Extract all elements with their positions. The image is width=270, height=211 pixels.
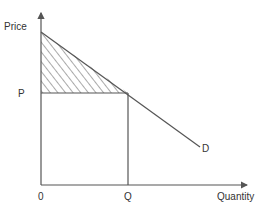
demand-curve-label: D (202, 143, 209, 154)
x-axis-label: Quantity (217, 191, 254, 202)
y-axis-label: Price (4, 21, 27, 32)
price-level-label: P (18, 88, 25, 99)
quantity-level-label: Q (124, 191, 132, 202)
origin-label: 0 (38, 191, 44, 202)
surplus-diagram: Price P 0 Q D Quantity (0, 0, 270, 211)
